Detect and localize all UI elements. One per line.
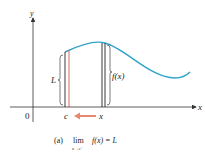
- approach-arrowhead: [74, 113, 80, 120]
- c-label: c: [64, 111, 68, 121]
- caption-sub: x→c⁺: [71, 146, 83, 151]
- function-curve: [65, 42, 190, 78]
- caption-part: (a): [54, 136, 63, 145]
- L-label: L: [50, 75, 56, 85]
- x-axis-label: x: [197, 102, 202, 112]
- x-label: x: [98, 111, 103, 121]
- caption-expr: f(x) = L: [92, 136, 118, 145]
- diagram-svg: y x 0 c x L f(x) (a) lim x→c⁺ f(x) = L: [0, 0, 205, 155]
- fx-label: f(x): [112, 71, 125, 81]
- brace-L: [58, 55, 63, 105]
- limit-diagram: y x 0 c x L f(x) (a) lim x→c⁺ f(x) = L: [0, 0, 205, 155]
- caption-lim: lim: [73, 136, 84, 145]
- y-axis-label: y: [29, 9, 34, 18]
- origin-label: 0: [25, 111, 30, 121]
